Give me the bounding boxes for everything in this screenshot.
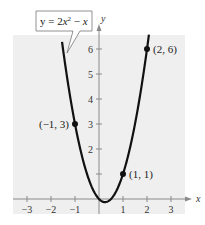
parabola-chart: x −3−2−1123 y 23456 (−1, 3)(1, 1)(2, 6) … — [0, 0, 205, 225]
y-tick-label: 5 — [88, 69, 93, 80]
y-axis-label: y — [100, 13, 106, 24]
equation-label: y = 2x2 − x — [40, 15, 88, 27]
y-tick-label: 4 — [88, 94, 93, 105]
y-tick-label: 6 — [88, 44, 93, 55]
y-tick-label: 2 — [88, 144, 93, 155]
x-axis-label: x — [195, 193, 201, 204]
data-point — [72, 121, 78, 127]
x-tick-label: 2 — [145, 204, 150, 215]
x-tick-label: −1 — [70, 204, 81, 215]
point-label: (1, 1) — [129, 168, 153, 181]
data-point — [120, 171, 126, 177]
x-tick-label: 3 — [169, 204, 174, 215]
x-axis-arrow-icon — [185, 197, 192, 202]
data-point — [144, 46, 150, 52]
point-label: (−1, 3) — [39, 118, 69, 131]
y-axis-arrow-icon — [97, 24, 102, 31]
x-tick-label: −2 — [46, 204, 57, 215]
x-tick-label: −3 — [22, 204, 33, 215]
y-tick-label: 3 — [88, 119, 93, 130]
point-label: (2, 6) — [153, 43, 177, 56]
x-tick-label: 1 — [121, 204, 126, 215]
